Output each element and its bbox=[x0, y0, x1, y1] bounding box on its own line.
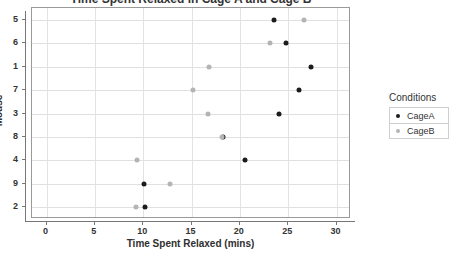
legend-item-cagea[interactable]: CageA bbox=[390, 108, 448, 123]
data-point bbox=[276, 111, 281, 116]
x-axis-tick-label: 25 bbox=[282, 226, 292, 236]
y-axis-tick bbox=[22, 19, 26, 20]
x-axis-tick bbox=[46, 221, 47, 225]
gridline-horizontal bbox=[32, 207, 349, 208]
gridline-horizontal bbox=[32, 137, 349, 138]
y-axis-tick bbox=[22, 42, 26, 43]
legend-marker-icon bbox=[393, 114, 403, 118]
x-axis-tick bbox=[142, 221, 143, 225]
x-axis-tick bbox=[94, 221, 95, 225]
legend-item-label: CageA bbox=[407, 111, 435, 121]
y-axis-tick-label: 5 bbox=[0, 14, 18, 24]
x-axis-tick-label: 30 bbox=[330, 226, 340, 236]
y-axis-tick-label: 8 bbox=[0, 131, 18, 141]
data-point bbox=[191, 88, 196, 93]
y-axis-tick bbox=[22, 183, 26, 184]
data-point bbox=[134, 205, 139, 210]
chart-container: Time Spent Relaxed in Cage A and Cage B … bbox=[0, 0, 452, 253]
data-point bbox=[143, 205, 148, 210]
gridline-horizontal bbox=[32, 184, 349, 185]
data-point bbox=[309, 64, 314, 69]
y-axis-tick-label: 7 bbox=[0, 84, 18, 94]
data-point bbox=[296, 88, 301, 93]
gridline-vertical bbox=[240, 8, 241, 217]
gridline-horizontal bbox=[32, 160, 349, 161]
legend-marker-icon bbox=[393, 129, 403, 133]
gridline-vertical bbox=[47, 8, 48, 217]
gridline-vertical bbox=[288, 8, 289, 217]
data-point bbox=[219, 134, 224, 139]
data-point bbox=[205, 111, 210, 116]
y-axis-title: Mouse bbox=[0, 95, 4, 127]
y-axis-tick bbox=[22, 159, 26, 160]
y-axis-tick bbox=[22, 89, 26, 90]
plot-area bbox=[31, 7, 350, 218]
y-axis-tick-label: 2 bbox=[0, 201, 18, 211]
x-axis-tick-label: 10 bbox=[137, 226, 147, 236]
gridline-horizontal bbox=[32, 114, 349, 115]
gridline-vertical bbox=[192, 8, 193, 217]
y-axis-tick-label: 4 bbox=[0, 154, 18, 164]
gridline-horizontal bbox=[32, 67, 349, 68]
x-axis-tick bbox=[239, 221, 240, 225]
legend-title: Conditions bbox=[389, 92, 451, 103]
data-point bbox=[242, 158, 247, 163]
legend-item-label: CageB bbox=[407, 126, 435, 136]
y-axis-tick bbox=[22, 66, 26, 67]
legend-item-cageb[interactable]: CageB bbox=[390, 123, 448, 138]
y-axis-tick-label: 1 bbox=[0, 61, 18, 71]
data-point bbox=[284, 41, 289, 46]
y-axis-tick bbox=[22, 206, 26, 207]
data-point bbox=[206, 64, 211, 69]
x-axis-tick-label: 0 bbox=[43, 226, 48, 236]
data-point bbox=[135, 158, 140, 163]
chart-title: Time Spent Relaxed in Cage A and Cage B bbox=[31, 0, 351, 6]
x-axis-tick-label: 15 bbox=[185, 226, 195, 236]
legend-entries: CageACageB bbox=[389, 107, 449, 139]
x-axis-title: Time Spent Relaxed (mins) bbox=[31, 238, 350, 249]
y-axis-tick bbox=[22, 136, 26, 137]
x-axis-tick-label: 5 bbox=[91, 226, 96, 236]
gridline-vertical bbox=[95, 8, 96, 217]
data-point bbox=[168, 181, 173, 186]
legend: Conditions CageACageB bbox=[389, 92, 451, 139]
x-axis-tick bbox=[191, 221, 192, 225]
y-axis-tick-label: 6 bbox=[0, 37, 18, 47]
data-point bbox=[267, 41, 272, 46]
data-point bbox=[142, 181, 147, 186]
y-axis-tick-label: 9 bbox=[0, 178, 18, 188]
x-axis-tick bbox=[287, 221, 288, 225]
gridline-vertical bbox=[337, 8, 338, 217]
gridline-horizontal bbox=[32, 43, 349, 44]
data-point bbox=[271, 17, 276, 22]
x-axis-tick-label: 20 bbox=[234, 226, 244, 236]
data-point bbox=[301, 17, 306, 22]
y-axis-tick bbox=[22, 113, 26, 114]
x-axis-tick bbox=[336, 221, 337, 225]
